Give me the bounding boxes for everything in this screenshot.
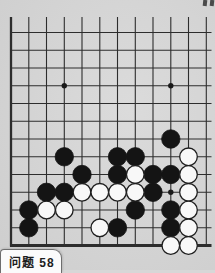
scan-artifact-marks: [203, 0, 214, 6]
problem-caption-tab: 问题 58: [0, 249, 62, 273]
white-stone: [38, 201, 56, 219]
white-stone: [162, 237, 180, 255]
black-stone: [55, 183, 73, 201]
black-stone: [108, 165, 126, 183]
white-stone: [91, 219, 109, 237]
white-stone: [127, 184, 145, 202]
white-stone: [127, 166, 145, 184]
white-stone: [91, 184, 109, 202]
black-stone: [73, 165, 91, 183]
white-stone: [180, 184, 198, 202]
star-point: [168, 190, 173, 195]
black-stone: [37, 183, 55, 201]
white-stone: [180, 219, 198, 237]
black-stone: [144, 165, 162, 183]
scan-artifact-mark: [210, 0, 215, 6]
white-stone: [73, 184, 91, 202]
star-point: [168, 83, 173, 88]
black-stone: [20, 201, 38, 219]
problem-caption-label: 问题 58: [1, 250, 61, 270]
black-stone: [108, 219, 126, 237]
scan-artifact-mark: [203, 0, 208, 6]
white-stone: [180, 201, 198, 219]
star-point: [62, 83, 67, 88]
black-stone: [162, 130, 180, 148]
black-stone: [162, 165, 180, 183]
black-stone: [144, 183, 162, 201]
black-stone: [126, 148, 144, 166]
black-stone: [162, 219, 180, 237]
black-stone: [162, 201, 180, 219]
black-stone: [126, 201, 144, 219]
white-stone: [180, 148, 198, 166]
white-stone: [56, 201, 74, 219]
white-stone: [180, 166, 198, 184]
black-stone: [55, 148, 73, 166]
black-stone: [108, 148, 126, 166]
white-stone: [109, 184, 127, 202]
black-stone: [20, 219, 38, 237]
white-stone: [180, 237, 198, 255]
